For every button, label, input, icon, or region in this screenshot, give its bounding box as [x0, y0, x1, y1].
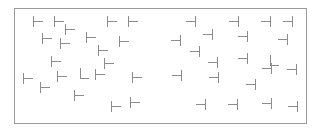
- glyph-stem-stroke: [209, 77, 218, 78]
- glyph-stem-stroke: [246, 84, 255, 85]
- glyph-stem-stroke: [61, 43, 70, 44]
- glyph-bar-stroke: [296, 64, 297, 75]
- glyph-stem-stroke: [75, 95, 84, 96]
- glyph-stem-stroke: [112, 106, 121, 107]
- glyph-stem-stroke: [80, 78, 89, 79]
- glyph-bar-stroke: [205, 99, 206, 110]
- glyph-stem-stroke: [131, 102, 140, 103]
- glyph-stem-stroke: [261, 21, 270, 22]
- glyph-stem-stroke: [171, 40, 180, 41]
- glyph-stem-stroke: [24, 78, 33, 79]
- glyph-bar-stroke: [271, 98, 272, 109]
- glyph-stem-stroke: [270, 65, 279, 66]
- glyph-stem-stroke: [238, 36, 247, 37]
- glyph-stem-stroke: [66, 29, 75, 30]
- glyph-stem-stroke: [186, 21, 195, 22]
- glyph-stem-stroke: [120, 41, 129, 42]
- glyph-bar-stroke: [255, 79, 256, 90]
- glyph-bar-stroke: [247, 53, 248, 64]
- glyph-stem-stroke: [52, 61, 61, 62]
- glyph-stem-stroke: [129, 21, 138, 22]
- glyph-bar-stroke: [199, 46, 200, 57]
- glyph-stem-stroke: [133, 77, 142, 78]
- glyph-bar-stroke: [212, 29, 213, 40]
- glyph-stem-stroke: [41, 87, 50, 88]
- glyph-stem-stroke: [262, 68, 271, 69]
- glyph-bar-stroke: [270, 16, 271, 27]
- glyph-stem-stroke: [287, 69, 296, 70]
- glyph-stem-stroke: [283, 21, 292, 22]
- glyph-stem-stroke: [228, 104, 237, 105]
- glyph-bar-stroke: [217, 57, 218, 68]
- glyph-stem-stroke: [87, 37, 96, 38]
- glyph-bar-stroke: [287, 34, 288, 45]
- glyph-stem-stroke: [288, 106, 297, 107]
- glyph-stem-stroke: [229, 21, 238, 22]
- glyph-stem-stroke: [96, 74, 105, 75]
- glyph-bar-stroke: [237, 99, 238, 110]
- glyph-stem-stroke: [208, 62, 217, 63]
- glyph-stem-stroke: [278, 39, 287, 40]
- glyph-bar-stroke: [218, 72, 219, 83]
- glyph-bar-stroke: [180, 35, 181, 46]
- glyph-stem-stroke: [58, 76, 67, 77]
- glyph-stem-stroke: [105, 63, 114, 64]
- glyph-bar-stroke: [195, 16, 196, 27]
- glyph-stem-stroke: [262, 103, 271, 104]
- glyph-bar-stroke: [181, 70, 182, 81]
- glyph-stem-stroke: [190, 51, 199, 52]
- stimulus-canvas: [0, 0, 321, 132]
- glyph-bar-stroke: [297, 101, 298, 112]
- glyph-stem-stroke: [55, 21, 64, 22]
- glyph-stem-stroke: [196, 104, 205, 105]
- glyph-bar-stroke: [292, 16, 293, 27]
- glyph-stem-stroke: [108, 21, 117, 22]
- glyph-stem-stroke: [238, 58, 247, 59]
- glyph-stem-stroke: [34, 21, 43, 22]
- glyph-bar-stroke: [247, 31, 248, 42]
- glyph-stem-stroke: [99, 50, 108, 51]
- glyph-stem-stroke: [203, 34, 212, 35]
- glyph-stem-stroke: [43, 38, 52, 39]
- search-field-frame: [14, 8, 307, 124]
- glyph-stem-stroke: [172, 75, 181, 76]
- glyph-bar-stroke: [238, 16, 239, 27]
